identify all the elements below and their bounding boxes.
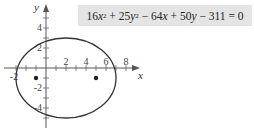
focus-point-right	[94, 76, 98, 80]
x-tick-label: 6	[104, 56, 109, 67]
x-axis-label: x	[137, 69, 143, 81]
x-axis: -2 2 4 6 8 x	[4, 56, 143, 82]
y-axis-label: y	[33, 1, 39, 13]
eq-part: + 25	[106, 10, 130, 22]
x-tick-label: 2	[64, 56, 69, 67]
x-tick-label: 8	[124, 56, 129, 67]
eq-part: − 64	[139, 10, 163, 22]
ellipse-curve	[16, 38, 116, 118]
focus-point-left	[34, 76, 38, 80]
y-axis-arrow-icon	[43, 4, 49, 12]
eq-part: + 50	[168, 10, 192, 22]
y-tick-label: 4	[37, 22, 42, 33]
eq-part: 16	[86, 10, 98, 22]
y-tick-label: -2	[34, 82, 42, 93]
eq-part: − 311 = 0	[197, 10, 244, 22]
x-tick-label: 4	[84, 56, 89, 67]
equation-label: 16x2 + 25y2 − 64x + 50y − 311 = 0	[78, 5, 252, 26]
